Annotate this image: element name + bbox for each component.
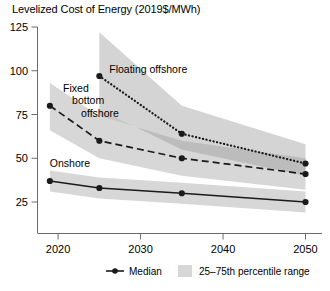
y-axis-tick-labels: 125100755025 — [10, 21, 28, 208]
y-tick-label-125: 125 — [10, 21, 28, 33]
data-point-onshore-2019 — [47, 178, 53, 184]
y-axis-ticks — [32, 27, 38, 202]
data-point-onshore-2050 — [302, 199, 308, 205]
y-tick-label-75: 75 — [16, 109, 28, 121]
percentile-bands — [50, 32, 306, 212]
chart-plot-area: 125100755025 2020203020402050 Floating o… — [0, 0, 330, 291]
series-label-fixed-bottom-offshore-line2: bottom — [72, 94, 104, 106]
data-point-floating-offshore-2025 — [96, 73, 102, 79]
x-tick-label-2050: 2050 — [293, 243, 317, 255]
legend-median-marker — [112, 268, 118, 274]
series-label-fixed-bottom-offshore-line1: Fixed — [63, 82, 89, 94]
chart-container: Levelized Cost of Energy (2019$/MWh) 125… — [0, 0, 330, 291]
data-point-fixed-bottom-offshore-2025 — [96, 138, 102, 144]
y-tick-label-100: 100 — [10, 65, 28, 77]
series-label-onshore: Onshore — [50, 157, 90, 169]
x-tick-label-2040: 2040 — [211, 243, 235, 255]
data-point-fixed-bottom-offshore-2019 — [47, 103, 53, 109]
data-point-fixed-bottom-offshore-2035 — [179, 155, 185, 161]
data-point-onshore-2025 — [96, 185, 102, 191]
x-axis-ticks — [58, 234, 305, 240]
y-tick-label-50: 50 — [16, 152, 28, 164]
x-tick-label-2030: 2030 — [128, 243, 152, 255]
series-label-floating-offshore: Floating offshore — [109, 63, 187, 75]
data-point-floating-offshore-2050 — [302, 160, 308, 166]
chart-legend: Median 25–75th percentile range — [106, 265, 310, 277]
x-axis-tick-labels: 2020203020402050 — [46, 243, 318, 255]
data-point-fixed-bottom-offshore-2050 — [302, 171, 308, 177]
legend-label-median: Median — [129, 266, 162, 277]
data-point-floating-offshore-2035 — [179, 131, 185, 137]
series-label-fixed-bottom-offshore-line3: offshore — [81, 107, 119, 119]
y-tick-label-25: 25 — [16, 196, 28, 208]
legend-label-percentile-range: 25–75th percentile range — [199, 266, 310, 277]
data-point-onshore-2035 — [179, 190, 185, 196]
x-tick-label-2020: 2020 — [46, 243, 70, 255]
legend-band-swatch — [178, 265, 192, 277]
